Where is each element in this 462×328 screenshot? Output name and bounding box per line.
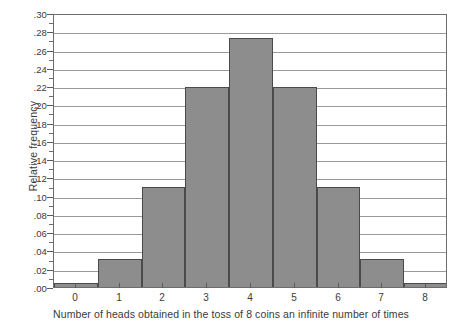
x-axis-tick-label: 0 (60, 292, 90, 303)
x-axis-tick (338, 283, 339, 288)
x-axis-tick-label: 2 (147, 292, 177, 303)
x-axis-tick-label: 4 (235, 292, 265, 303)
x-axis-tick-label: 7 (366, 292, 396, 303)
x-axis-tick (162, 283, 163, 288)
x-axis-tick-labels: 012345678 (0, 292, 462, 308)
x-axis-tick-label: 5 (279, 292, 309, 303)
x-axis-tick (425, 283, 426, 288)
x-axis-title: Number of heads obtained in the toss of … (0, 308, 462, 320)
histogram-figure: Relative frequency .00.02.04.06.08.10.12… (0, 0, 462, 328)
x-axis-tick-label: 6 (323, 292, 353, 303)
x-axis-tick (250, 283, 251, 288)
x-axis-tick-label: 3 (191, 292, 221, 303)
x-axis-tick (119, 283, 120, 288)
x-axis-tick (75, 283, 76, 288)
x-axis-tick-label: 1 (104, 292, 134, 303)
x-axis-tick-label: 8 (410, 292, 440, 303)
x-axis-tick (294, 283, 295, 288)
x-axis-tick (381, 283, 382, 288)
x-axis-tick (206, 283, 207, 288)
x-axis-tick-marks (0, 0, 462, 328)
